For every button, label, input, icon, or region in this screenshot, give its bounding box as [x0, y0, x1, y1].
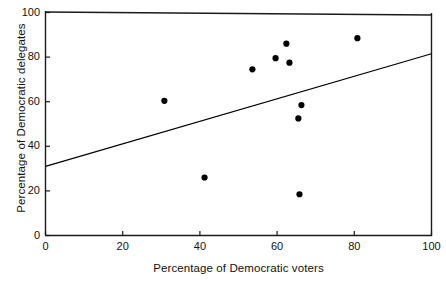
- data-point: [298, 102, 304, 108]
- regression-line: [46, 54, 432, 167]
- data-point: [296, 191, 302, 197]
- x-tick-label: 40: [185, 240, 215, 252]
- data-point-group: [161, 35, 360, 197]
- y-tick-label: 40: [14, 139, 40, 151]
- x-tick-label: 20: [108, 240, 138, 252]
- x-tick-label: 0: [31, 240, 61, 252]
- y-tick-label: 60: [14, 95, 40, 107]
- plot-frame: [45, 11, 432, 236]
- y-tick-label: 20: [14, 184, 40, 196]
- y-axis-label: Percentage of Democratic delegates: [15, 2, 27, 234]
- axis-tick-marks: [46, 13, 432, 236]
- x-tick-label: 100: [417, 240, 446, 252]
- x-tick-label: 80: [339, 240, 369, 252]
- data-point: [354, 35, 360, 41]
- data-point: [283, 41, 289, 47]
- data-point: [161, 98, 167, 104]
- scatter-plot-figure: Percentage of Democratic delegates Perce…: [0, 0, 446, 282]
- plot-canvas: [0, 0, 446, 282]
- x-tick-label: 60: [262, 240, 292, 252]
- data-point: [249, 66, 255, 72]
- data-point: [272, 55, 278, 61]
- data-point: [286, 60, 292, 66]
- y-tick-label: 100: [14, 6, 40, 18]
- y-tick-label: 80: [14, 50, 40, 62]
- x-axis-label: Percentage of Democratic voters: [45, 262, 432, 274]
- data-point: [295, 115, 301, 121]
- y-tick-label: 0: [14, 229, 40, 241]
- trend-line: [46, 54, 432, 167]
- data-point: [201, 174, 207, 180]
